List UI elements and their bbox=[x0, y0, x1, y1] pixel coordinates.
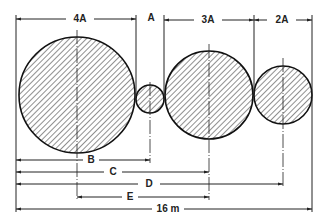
dim-b-label: B bbox=[87, 154, 94, 165]
dim-total-label: 16 m bbox=[157, 203, 180, 214]
dim-3a-label: 3A bbox=[202, 14, 215, 25]
dim-e-label: E bbox=[127, 191, 134, 202]
dim-a-label: A bbox=[147, 12, 154, 23]
dim-c-label: C bbox=[109, 166, 116, 177]
dim-2a-label: 2A bbox=[276, 14, 289, 25]
dim-d-label: D bbox=[145, 178, 152, 189]
dim-4a-label: 4A bbox=[74, 13, 87, 24]
circles-dimension-diagram: 4A A 3A 2A B C D E 16 m bbox=[0, 0, 328, 224]
